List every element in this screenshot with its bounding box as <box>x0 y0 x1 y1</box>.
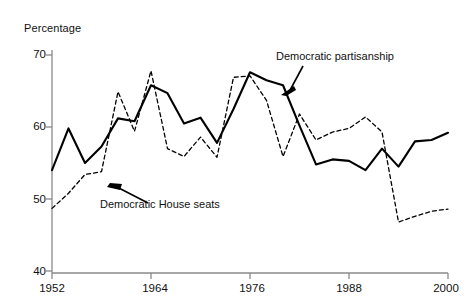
chart-figure: Percentage 70 60 50 40 1952 1964 1976 19… <box>0 0 469 302</box>
data-series-layer <box>52 71 448 222</box>
y-axis-ticks <box>46 55 52 271</box>
axis-lines <box>52 50 448 273</box>
series-line-democratic-house-seats <box>52 71 448 222</box>
plot-area <box>0 0 469 302</box>
annotation-leaders <box>107 66 303 203</box>
x-axis-ticks <box>52 273 448 279</box>
arrow-head-house <box>107 183 122 190</box>
